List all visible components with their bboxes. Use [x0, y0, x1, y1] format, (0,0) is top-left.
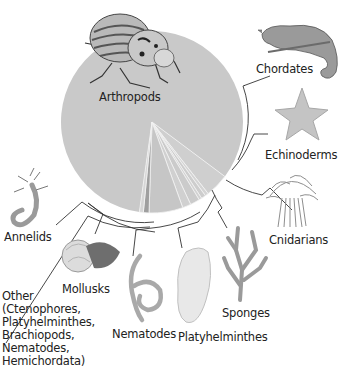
- annelid-illustration: [13, 168, 48, 225]
- label-arthropods: Arthropods: [99, 90, 161, 104]
- label-cnidarians: Cnidarians: [269, 233, 328, 247]
- phyla-pie-figure: Arthropods Chordates Echinoderms Cnidari…: [0, 0, 340, 368]
- label-annelids: Annelids: [4, 230, 52, 244]
- starfish-illustration: [275, 88, 328, 140]
- anemone-illustration: [266, 175, 318, 227]
- label-nematodes: Nematodes: [112, 327, 176, 341]
- label-platyhelminthes: Platyhelminthes: [178, 330, 268, 344]
- label-echinoderms: Echinoderms: [265, 148, 337, 162]
- label-other: Other (Ctenophores, Platyhelminthes, Bra…: [2, 290, 95, 368]
- label-sponges: Sponges: [222, 306, 270, 320]
- flatworm-illustration: [178, 248, 211, 323]
- nautilus-illustration: [62, 240, 120, 272]
- roundworm-illustration: [131, 256, 161, 320]
- sponge-illustration: [224, 228, 266, 300]
- label-chordates: Chordates: [256, 62, 313, 76]
